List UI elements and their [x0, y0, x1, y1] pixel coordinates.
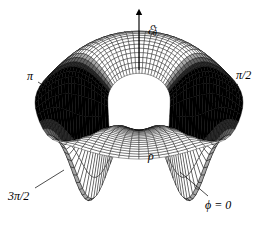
figure-container: ℰθτ π π/2 3π/2 ϕ = 0 ρ: [0, 0, 277, 227]
surface-plot-svg: [0, 0, 277, 227]
vertical-axis-label: ℰθτ: [147, 24, 157, 37]
azimuth-label-3pi-half: 3π/2: [8, 190, 29, 202]
radial-axis-label: ρ: [148, 150, 154, 162]
leader-3pi-half: [35, 170, 64, 188]
vertical-axis-superscript: τ: [154, 24, 157, 33]
azimuth-label-phi-zero: ϕ = 0: [205, 199, 231, 211]
azimuth-label-pi: π: [27, 70, 33, 82]
azimuth-label-pi-half: π/2: [236, 69, 251, 81]
